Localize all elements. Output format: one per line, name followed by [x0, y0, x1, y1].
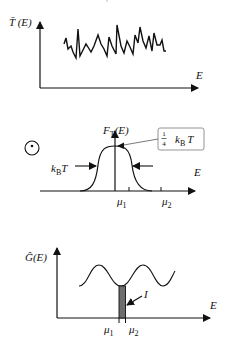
current-bar: [119, 286, 126, 318]
x-axis-label: E: [209, 299, 217, 311]
circle-dot-center: [31, 145, 34, 148]
y-axis-label: Ĝ(E): [25, 251, 47, 264]
conductance-wave: [79, 265, 175, 286]
tick-label-mu1: μ1: [103, 323, 114, 338]
panel-fermi-window: FT(E) E kBT 1 4 kBT μ1 μ2: [25, 124, 204, 210]
annotation-pointer-icon: [117, 143, 124, 150]
x-axis-label: E: [193, 166, 201, 178]
fermi-window-curve: [80, 146, 152, 191]
circle-dot-icon: [25, 141, 39, 155]
fraction-denominator: 4: [162, 140, 166, 148]
x-axis-label: E: [195, 69, 203, 81]
current-label: I: [143, 288, 149, 300]
tick-label-mu1: μ1: [116, 195, 127, 210]
fraction-numerator: 1: [162, 130, 166, 138]
figure-canvas: T̄ (E) E FT(E) E kBT 1 4 kBT μ1 μ2: [0, 0, 226, 343]
width-label: kBT: [51, 162, 68, 177]
noisy-transmission-curve: [64, 25, 166, 58]
panel-conductance: Ĝ(E) E I μ1 μ2: [25, 248, 217, 338]
tick-label-mu2: μ2: [128, 323, 139, 338]
panel-transmission: T̄ (E) E: [9, 16, 203, 88]
tick-label-mu2: μ2: [161, 195, 172, 210]
y-axis-label: T̄ (E): [9, 16, 32, 29]
current-arrow: [127, 296, 142, 305]
